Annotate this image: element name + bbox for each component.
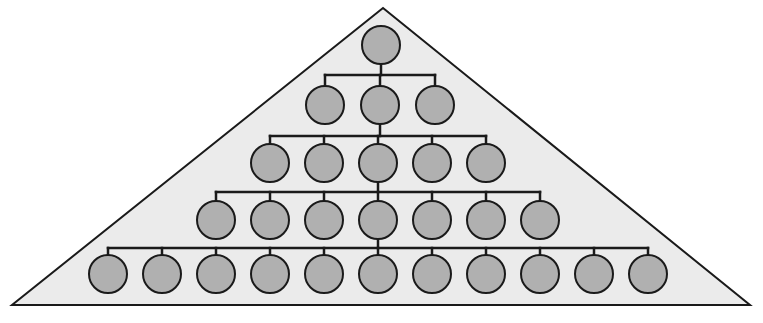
node-circle-n2-3[interactable] bbox=[416, 86, 454, 124]
node-circle-n4-5[interactable] bbox=[413, 201, 451, 239]
node-circle-n5-3[interactable] bbox=[197, 255, 235, 293]
diagram-canvas bbox=[0, 0, 763, 323]
node-circle-n5-1[interactable] bbox=[89, 255, 127, 293]
node-circle-n4-4[interactable] bbox=[359, 201, 397, 239]
node-circle-n4-3[interactable] bbox=[305, 201, 343, 239]
node-circle-n5-7[interactable] bbox=[413, 255, 451, 293]
node-circle-n4-1[interactable] bbox=[197, 201, 235, 239]
node-circle-n3-1[interactable] bbox=[251, 144, 289, 182]
node-circle-n5-6[interactable] bbox=[359, 255, 397, 293]
node-circle-n3-2[interactable] bbox=[305, 144, 343, 182]
node-circle-n2-2[interactable] bbox=[361, 86, 399, 124]
node-circle-n5-4[interactable] bbox=[251, 255, 289, 293]
node-circle-n3-4[interactable] bbox=[413, 144, 451, 182]
node-circle-n5-8[interactable] bbox=[467, 255, 505, 293]
node-circle-n5-9[interactable] bbox=[521, 255, 559, 293]
node-circle-n3-5[interactable] bbox=[467, 144, 505, 182]
node-circle-n5-2[interactable] bbox=[143, 255, 181, 293]
node-circle-n5-5[interactable] bbox=[305, 255, 343, 293]
node-circle-n4-7[interactable] bbox=[521, 201, 559, 239]
node-circle-n2-1[interactable] bbox=[306, 86, 344, 124]
node-circle-n1-1[interactable] bbox=[362, 26, 400, 64]
node-circle-n3-3[interactable] bbox=[359, 144, 397, 182]
hierarchy-pyramid-diagram bbox=[0, 0, 763, 323]
node-circle-n5-11[interactable] bbox=[629, 255, 667, 293]
node-circle-n4-6[interactable] bbox=[467, 201, 505, 239]
node-circle-n5-10[interactable] bbox=[575, 255, 613, 293]
node-circle-n4-2[interactable] bbox=[251, 201, 289, 239]
